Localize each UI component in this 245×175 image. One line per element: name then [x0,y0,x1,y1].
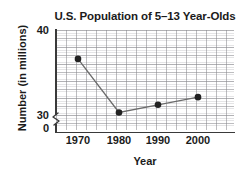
x-axis-title: Year [52,155,238,167]
y-tick-label-zero: 0 [27,122,49,134]
y-tick-label-40: 40 [27,24,49,36]
x-tick-label-1990: 1990 [138,134,178,146]
x-tick-label-1980: 1980 [99,134,139,146]
x-tick-label-1970: 1970 [58,134,98,146]
plot-area [56,30,234,130]
y-tick-label-30: 30 [27,109,49,121]
chart-title: U.S. Population of 5–13 Year-Olds [52,10,238,22]
y-axis-line [55,29,57,115]
y-axis-break-icon [47,112,63,128]
chart-screenshot: U.S. Population of 5–13 Year-Olds Number… [0,0,245,175]
x-axis-line [55,132,235,134]
x-tick-label-2000: 2000 [178,134,218,146]
